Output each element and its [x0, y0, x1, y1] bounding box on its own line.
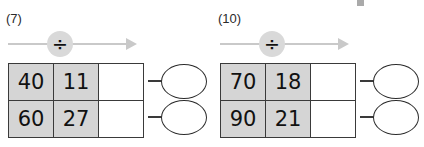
table-row: 40 11	[9, 64, 144, 101]
problem-block-2: (10) ÷ 70 18 90 21	[212, 0, 424, 147]
problem-number-label: (7)	[6, 12, 22, 25]
answer-bubble[interactable]	[161, 64, 207, 99]
dividend-cell: 40	[9, 64, 54, 101]
connector-line	[360, 116, 374, 118]
connector-line	[360, 80, 374, 82]
dividend-cell: 90	[221, 101, 266, 138]
divisor-cell: 21	[266, 101, 311, 138]
answer-bubble[interactable]	[373, 64, 419, 99]
operation-arrow-2: ÷	[220, 31, 360, 57]
quotient-input-cell[interactable]	[99, 64, 144, 101]
problem-grid-2: 70 18 90 21	[220, 63, 356, 138]
table-row: 60 27	[9, 101, 144, 138]
table-row: 90 21	[221, 101, 356, 138]
problem-block-1: (7) ÷ 40 11 60 27	[0, 0, 212, 147]
answer-bubble[interactable]	[161, 100, 207, 135]
worksheet-canvas: (7) ÷ 40 11 60 27 (10)	[0, 0, 424, 147]
table-row: 70 18	[221, 64, 356, 101]
divisor-cell: 11	[54, 64, 99, 101]
divisor-cell: 18	[266, 64, 311, 101]
divisor-cell: 27	[54, 101, 99, 138]
scan-artifact	[357, 0, 364, 6]
divide-icon: ÷	[47, 31, 73, 57]
operation-arrow-1: ÷	[8, 31, 148, 57]
right-arrow-icon	[338, 38, 349, 50]
problem-grid-1: 40 11 60 27	[8, 63, 144, 138]
dividend-cell: 60	[9, 101, 54, 138]
right-arrow-icon	[126, 38, 137, 50]
quotient-input-cell[interactable]	[311, 101, 356, 138]
answer-bubble[interactable]	[373, 100, 419, 135]
connector-line	[148, 80, 162, 82]
quotient-input-cell[interactable]	[99, 101, 144, 138]
connector-line	[148, 116, 162, 118]
dividend-cell: 70	[221, 64, 266, 101]
problem-number-label: (10)	[218, 12, 241, 25]
quotient-input-cell[interactable]	[311, 64, 356, 101]
divide-icon: ÷	[259, 31, 285, 57]
